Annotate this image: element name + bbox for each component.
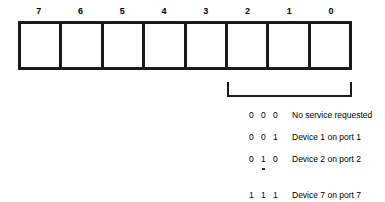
- vertical-ellipsis-icon: [262, 168, 265, 172]
- legend-bits: 0 1 0: [249, 148, 285, 170]
- legend-bits: 0 0 1: [249, 126, 285, 148]
- encoding-legend: 0 0 0 No service requested 0 0 1 Device …: [249, 104, 385, 202]
- bit-number-labels: 7 6 5 4 3 2 1 0: [18, 3, 352, 19]
- legend-bit: 0: [249, 148, 261, 170]
- legend-bit: 0: [261, 126, 273, 148]
- bit-label-7: 7: [18, 3, 60, 19]
- legend-row: 1 1 1 Device 7 on port 7: [249, 184, 385, 202]
- legend-bit: 0: [273, 104, 285, 126]
- legend-row: 0 0 1 Device 1 on port 1: [249, 126, 385, 148]
- bit-cell-5: [104, 24, 145, 67]
- legend-bit: 1: [261, 148, 273, 170]
- legend-bits: 0 0 0: [249, 104, 285, 126]
- bit-label-4: 4: [143, 3, 185, 19]
- legend-row: 0 0 0 No service requested: [249, 104, 385, 126]
- legend-description: No service requested: [285, 104, 372, 126]
- bit-label-3: 3: [185, 3, 227, 19]
- legend-bit: 1: [249, 184, 261, 202]
- bit-cell-3: [187, 24, 228, 67]
- bit-cell-0: [311, 24, 349, 67]
- legend-bit: 0: [261, 104, 273, 126]
- legend-row: 0 1 0 Device 2 on port 2: [249, 148, 385, 170]
- bit-label-1: 1: [269, 3, 311, 19]
- legend-bit: 0: [249, 126, 261, 148]
- byte-field-boxes: [18, 21, 352, 70]
- bit-cell-6: [62, 24, 103, 67]
- legend-description: Device 2 on port 2: [285, 148, 361, 170]
- vertical-ellipsis-row: [249, 170, 385, 184]
- bit-cell-7: [21, 24, 62, 67]
- legend-bits: 1 1 1: [249, 184, 285, 202]
- bit-label-0: 0: [310, 3, 352, 19]
- service-request-byte-diagram: 7 6 5 4 3 2 1 0 0 0 0 No service request…: [0, 0, 385, 202]
- legend-description: Device 7 on port 7: [285, 184, 361, 202]
- legend-bit: 1: [261, 184, 273, 202]
- bit-cell-4: [145, 24, 186, 67]
- legend-bit: 1: [273, 126, 285, 148]
- legend-bit: 0: [273, 148, 285, 170]
- legend-bit: 0: [249, 104, 261, 126]
- bit-label-6: 6: [60, 3, 102, 19]
- bit-cell-2: [228, 24, 269, 67]
- bit-label-2: 2: [227, 3, 269, 19]
- legend-description: Device 1 on port 1: [285, 126, 361, 148]
- legend-bit: 1: [273, 184, 285, 202]
- low-three-bits-bracket: [227, 82, 352, 97]
- bit-cell-1: [269, 24, 310, 67]
- bit-label-5: 5: [102, 3, 144, 19]
